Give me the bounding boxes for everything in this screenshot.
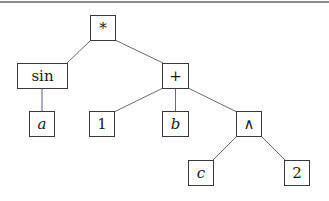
node-a: a (29, 111, 55, 137)
node-b: b (162, 111, 189, 137)
node-multiply: * (90, 15, 116, 41)
edge-mul-sin (67, 40, 91, 63)
edge-mul-plus (115, 40, 163, 63)
edge-plus-pow (188, 88, 237, 112)
edge-plus-one (114, 88, 163, 112)
edge-pow-c (213, 136, 237, 160)
edge-pow-two (261, 136, 285, 160)
node-two: 2 (284, 160, 310, 186)
node-one: 1 (89, 111, 115, 137)
node-power: ∧ (236, 111, 262, 137)
node-plus: + (162, 63, 189, 89)
node-c: c (188, 160, 214, 186)
tree-edges (0, 0, 329, 201)
node-sin: sin (17, 63, 68, 89)
